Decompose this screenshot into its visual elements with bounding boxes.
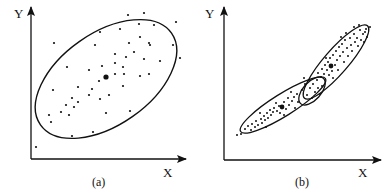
panel-caption: (a) bbox=[92, 175, 105, 189]
y-axis-label: Y bbox=[205, 6, 215, 21]
figure-canvas: Y X (a) bbox=[0, 0, 389, 194]
centroid-marker bbox=[103, 74, 108, 79]
panel-caption: (b) bbox=[295, 175, 309, 189]
y-axis-label: Y bbox=[14, 6, 24, 21]
panel-b: Y X (b) bbox=[205, 6, 381, 189]
x-axis-label: X bbox=[163, 165, 173, 180]
upper-cluster-ellipse bbox=[295, 18, 376, 106]
x-axis-label: X bbox=[358, 165, 368, 180]
single-cluster-ellipse bbox=[14, 0, 198, 163]
scatter-points bbox=[35, 12, 181, 148]
panel-a: Y X (a) bbox=[14, 0, 198, 189]
figure: Y X (a) bbox=[0, 0, 389, 194]
scatter-points bbox=[236, 24, 371, 136]
lower-centroid-marker bbox=[280, 105, 285, 110]
upper-centroid-marker bbox=[329, 64, 334, 69]
